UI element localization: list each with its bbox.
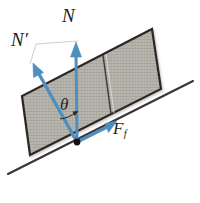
angle-label: θ	[60, 96, 68, 113]
friction-base: F	[113, 119, 123, 138]
normal-prime-base: N	[11, 29, 24, 50]
diagram-canvas	[0, 0, 200, 203]
prime-mark: ′	[24, 29, 28, 50]
bracket-connector	[30, 41, 78, 64]
normal-prime-force-label: N′	[11, 30, 28, 49]
friction-force-label: Ff	[113, 120, 127, 139]
force-diagram-figure: N N′ θ Ff	[0, 0, 200, 203]
origin-dot	[74, 139, 81, 146]
normal-force-label: N	[62, 6, 75, 25]
friction-subscript: f	[124, 128, 127, 139]
